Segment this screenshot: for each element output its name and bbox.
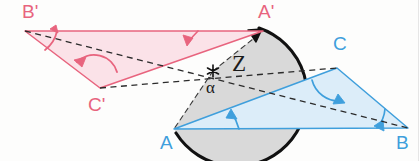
angle-label-alpha: α (206, 79, 215, 96)
vertex-label-b-prime: B' (22, 2, 38, 21)
vertex-label-c: C (333, 34, 347, 53)
geometry-figure: B' A' C' C A B Z α (0, 0, 419, 161)
center-label-z: Z (232, 52, 246, 75)
vertex-label-a-prime: A' (258, 2, 274, 21)
vertex-label-a: A (160, 133, 173, 152)
vertex-label-c-prime: C' (88, 95, 105, 114)
vertex-label-b: B (396, 133, 409, 152)
